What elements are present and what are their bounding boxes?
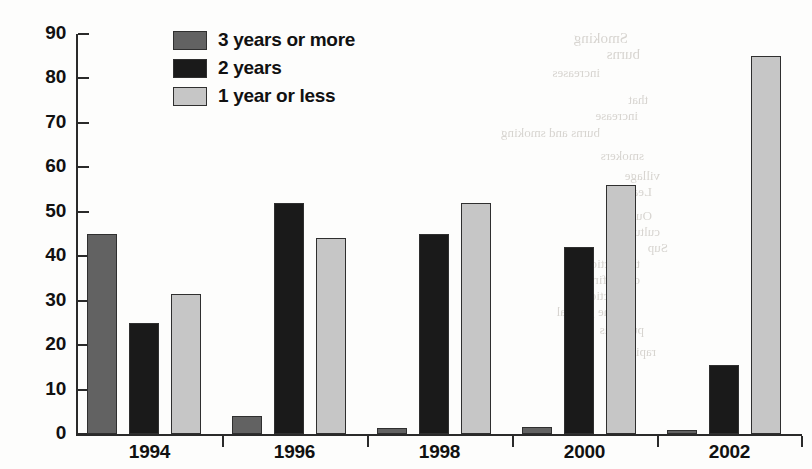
x-tick-label: 1994 — [77, 441, 222, 463]
legend-swatch-icon — [173, 87, 207, 106]
legend-label: 2 years — [218, 57, 281, 79]
x-tick-label: 2000 — [512, 441, 657, 463]
x-axis-line — [76, 434, 802, 436]
chart-page: Smokingburnsincreasesthatincreaseburns a… — [0, 0, 812, 469]
y-tick-label: 10 — [20, 378, 66, 400]
y-tick-label: 60 — [20, 155, 66, 177]
y-tick-label: 20 — [20, 333, 66, 355]
y-tick-label: 50 — [20, 200, 66, 222]
chart-legend: 3 years or more2 years1 year or less — [173, 27, 355, 111]
bar — [667, 430, 697, 434]
bar — [564, 247, 594, 434]
bar — [606, 185, 636, 434]
y-tick-mark — [78, 122, 89, 124]
bar — [129, 323, 159, 434]
y-tick-mark — [78, 33, 89, 35]
bar — [87, 234, 117, 434]
x-tick-label: 1996 — [222, 441, 367, 463]
legend-swatch-icon — [173, 31, 207, 50]
legend-swatch-icon — [173, 59, 207, 78]
y-axis-line — [76, 34, 78, 436]
legend-item: 1 year or less — [173, 83, 355, 109]
y-tick-label: 0 — [20, 422, 66, 444]
y-tick-mark — [78, 77, 89, 79]
bar — [171, 294, 201, 434]
y-tick-label: 90 — [20, 22, 66, 44]
legend-item: 3 years or more — [173, 27, 355, 53]
x-tick-label: 1998 — [367, 441, 512, 463]
x-tick-label: 2002 — [657, 441, 802, 463]
bar — [274, 203, 304, 434]
bar — [316, 238, 346, 434]
legend-label: 1 year or less — [218, 85, 335, 107]
bar — [232, 416, 262, 434]
bar-chart: 0102030405060708090 19941996199820002002 — [0, 0, 812, 469]
legend-item: 2 years — [173, 55, 355, 81]
bar — [419, 234, 449, 434]
y-tick-mark — [78, 211, 89, 213]
y-tick-mark — [78, 166, 89, 168]
y-tick-label: 30 — [20, 289, 66, 311]
bar — [377, 428, 407, 434]
bar — [522, 427, 552, 434]
bar — [751, 56, 781, 434]
bar — [461, 203, 491, 434]
bar — [709, 365, 739, 434]
legend-label: 3 years or more — [218, 29, 355, 51]
y-tick-label: 70 — [20, 111, 66, 133]
y-tick-label: 80 — [20, 66, 66, 88]
y-tick-label: 40 — [20, 244, 66, 266]
